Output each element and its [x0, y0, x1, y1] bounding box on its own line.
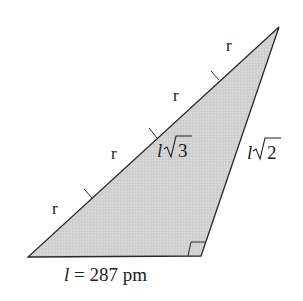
tick-mark-2: [149, 128, 157, 138]
segment-label-r-3: r: [173, 86, 179, 105]
leg-label-var: l: [247, 142, 252, 163]
base-label: l = 287 pm: [64, 264, 147, 285]
triangle-shape: [28, 27, 279, 257]
segment-label-r-4: r: [226, 36, 232, 55]
segment-label-r-2: r: [111, 144, 117, 163]
leg-label-root: 2: [267, 142, 277, 163]
hypotenuse-label-root: 3: [178, 140, 188, 161]
hypotenuse-label-var: l: [157, 140, 162, 161]
unit-cell-diagonal-diagram: r r r r l 3 l 2 l = 287 pm: [0, 0, 303, 301]
segment-label-r-1: r: [52, 199, 58, 218]
base-label-value: = 287 pm: [69, 264, 147, 285]
tick-mark-1: [84, 189, 92, 198]
tick-mark-3: [211, 71, 219, 80]
leg-label: l 2: [247, 138, 281, 163]
